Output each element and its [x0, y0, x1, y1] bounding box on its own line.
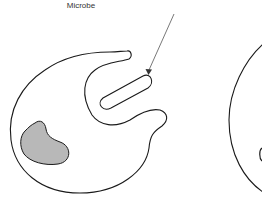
second-cell-nucleus-edge	[260, 148, 262, 161]
pointer-arrow	[146, 14, 175, 75]
second-cell-partial	[229, 44, 262, 192]
nucleus	[21, 121, 69, 164]
microbe	[100, 75, 151, 109]
phagocytosis-diagram	[0, 0, 262, 197]
phagocyte-cell	[10, 51, 166, 193]
